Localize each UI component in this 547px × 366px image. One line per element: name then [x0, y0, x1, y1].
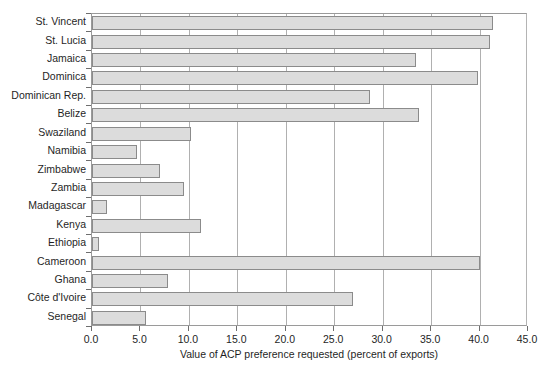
bar[interactable] — [92, 292, 353, 306]
y-axis-label: Côte d'Ivoire — [2, 291, 86, 303]
bar[interactable] — [92, 237, 99, 251]
y-axis-tick — [86, 105, 91, 106]
bar-row — [92, 164, 528, 178]
y-axis-label: Dominica — [2, 70, 86, 82]
x-axis-tick-label: 5.0 — [114, 333, 164, 345]
bar[interactable] — [92, 127, 191, 141]
y-axis-tick — [86, 216, 91, 217]
bar[interactable] — [92, 164, 160, 178]
y-axis-tick — [86, 68, 91, 69]
y-axis-tick — [86, 123, 91, 124]
y-axis-label: Senegal — [2, 310, 86, 322]
x-axis-tick — [139, 326, 140, 331]
x-axis-tick-label: 15.0 — [211, 333, 261, 345]
y-axis-tick — [86, 13, 91, 14]
y-axis-label: Ghana — [2, 273, 86, 285]
y-axis-tick — [86, 50, 91, 51]
x-axis-tick — [91, 326, 92, 331]
x-axis-tick — [527, 326, 528, 331]
y-axis-tick — [86, 289, 91, 290]
y-axis-label: Dominican Rep. — [2, 89, 86, 101]
y-axis-label: St. Vincent — [2, 15, 86, 27]
x-axis-tick — [479, 326, 480, 331]
x-axis-tick-label: 0.0 — [66, 333, 116, 345]
y-axis-label: Cameroon — [2, 255, 86, 267]
bar-row — [92, 90, 528, 104]
bar-row — [92, 274, 528, 288]
y-axis-label: Jamaica — [2, 52, 86, 64]
y-axis-tick — [86, 160, 91, 161]
bar[interactable] — [92, 90, 370, 104]
y-axis-label: Zimbabwe — [2, 163, 86, 175]
y-axis-tick — [86, 31, 91, 32]
bar-row — [92, 256, 528, 270]
y-axis-label: Swaziland — [2, 126, 86, 138]
bar-row — [92, 127, 528, 141]
y-axis-label: Madagascar — [2, 199, 86, 211]
y-axis-label: Kenya — [2, 218, 86, 230]
bar[interactable] — [92, 182, 184, 196]
x-axis-tick — [382, 326, 383, 331]
x-axis-tick-label: 10.0 — [163, 333, 213, 345]
bar-row — [92, 16, 528, 30]
bar[interactable] — [92, 53, 416, 67]
x-axis-tick-label: 25.0 — [308, 333, 358, 345]
y-axis-label: St. Lucia — [2, 34, 86, 46]
bar[interactable] — [92, 35, 490, 49]
y-axis-labels: St. VincentSt. LuciaJamaicaDominicaDomin… — [0, 0, 86, 366]
bar-row — [92, 219, 528, 233]
bar[interactable] — [92, 71, 478, 85]
x-axis-title: Value of ACP preference requested (perce… — [91, 348, 527, 360]
y-axis-tick — [86, 308, 91, 309]
y-axis-label: Belize — [2, 107, 86, 119]
bar[interactable] — [92, 256, 480, 270]
x-axis-tick — [285, 326, 286, 331]
y-axis-tick — [86, 87, 91, 88]
y-axis-tick — [86, 142, 91, 143]
bar[interactable] — [92, 16, 493, 30]
bar[interactable] — [92, 108, 419, 122]
bar[interactable] — [92, 200, 107, 214]
bar-row — [92, 182, 528, 196]
y-axis-label: Zambia — [2, 181, 86, 193]
y-axis-tick — [86, 271, 91, 272]
x-axis-tick — [333, 326, 334, 331]
x-axis-tick — [430, 326, 431, 331]
y-axis-label: Ethiopia — [2, 236, 86, 248]
y-axis-tick — [86, 197, 91, 198]
bar[interactable] — [92, 274, 168, 288]
x-axis-tick — [188, 326, 189, 331]
plot-area — [91, 13, 527, 326]
bar-row — [92, 311, 528, 325]
bar-row — [92, 145, 528, 159]
x-axis-tick-label: 20.0 — [260, 333, 310, 345]
bar-row — [92, 200, 528, 214]
y-axis-label: Namibia — [2, 144, 86, 156]
bar-row — [92, 108, 528, 122]
bar[interactable] — [92, 145, 137, 159]
y-axis-tick — [86, 179, 91, 180]
x-axis-tick-label: 40.0 — [454, 333, 504, 345]
x-axis-tick — [236, 326, 237, 331]
x-axis-tick-label: 30.0 — [357, 333, 407, 345]
bar-row — [92, 53, 528, 67]
bar-row — [92, 35, 528, 49]
x-axis-tick-label: 35.0 — [405, 333, 455, 345]
bar-row — [92, 292, 528, 306]
y-axis-tick — [86, 234, 91, 235]
bar-row — [92, 237, 528, 251]
bar-row — [92, 71, 528, 85]
bar[interactable] — [92, 311, 146, 325]
bar[interactable] — [92, 219, 201, 233]
x-axis-tick-label: 45.0 — [502, 333, 547, 345]
y-axis-tick — [86, 252, 91, 253]
